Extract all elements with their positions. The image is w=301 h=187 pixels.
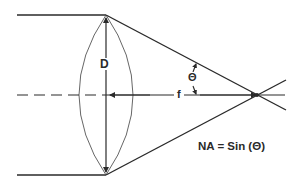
angle-arrow-down [193, 86, 196, 94]
na-formula: NA = Sin (Θ) [198, 141, 265, 153]
focal-length-label: f [174, 89, 184, 100]
theta-label: Θ [188, 72, 197, 83]
focal-point [255, 93, 259, 97]
lens-na-diagram: D f Θ NA = Sin (Θ) [0, 0, 301, 187]
diagram-canvas [0, 0, 301, 187]
diameter-label: D [99, 58, 110, 70]
